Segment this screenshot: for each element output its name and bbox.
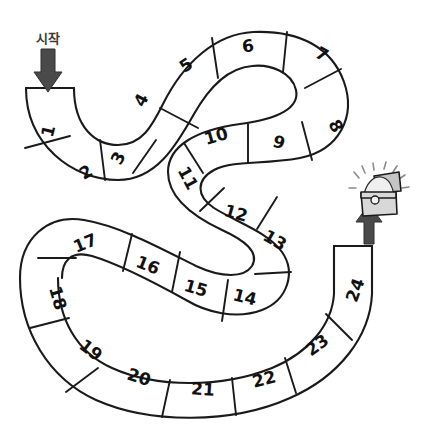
- cell-number-4: 4: [129, 90, 152, 110]
- sparkle-ray: [384, 162, 386, 169]
- track-ribbon: [20, 32, 372, 418]
- sparkle-ray: [362, 166, 365, 173]
- sparkle-ray: [402, 187, 409, 188]
- divider-12-13: [257, 197, 277, 229]
- board-track-svg: 1 2 3 4 5 6 7 8 9 10 11 12 13 14 15 16 1…: [0, 0, 426, 445]
- start-label: 시작: [36, 31, 60, 46]
- treasure-chest-icon: [349, 162, 409, 216]
- start-marker: 시작: [34, 31, 62, 93]
- sparkle-ray: [393, 166, 397, 172]
- sparkle-ray: [354, 172, 359, 178]
- arrow-down-icon: [34, 49, 62, 92]
- end-marker: [349, 162, 409, 244]
- sparkle-ray: [373, 163, 374, 170]
- board-game-canvas: 1 2 3 4 5 6 7 8 9 10 11 12 13 14 15 16 1…: [0, 0, 426, 445]
- cell-number-21: 21: [190, 378, 215, 400]
- chest-lock-icon: [371, 196, 379, 204]
